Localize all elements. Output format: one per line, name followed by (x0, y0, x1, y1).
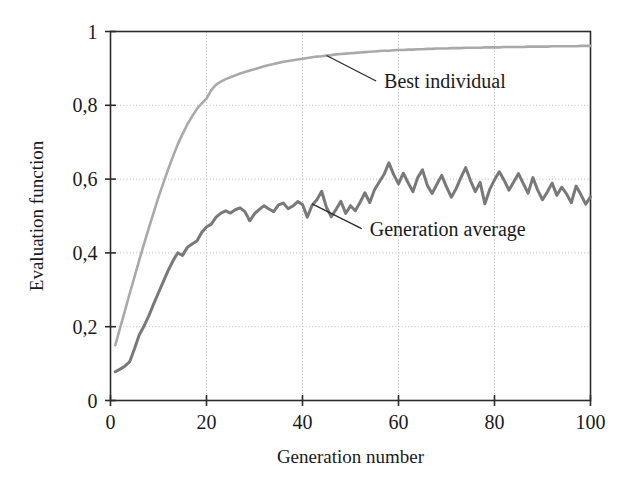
x-tick-label: 0 (106, 411, 116, 433)
y-tick-label: 0,4 (73, 242, 98, 264)
y-axis-title: Evaluation function (26, 140, 47, 291)
annotation-label-generation-average: Generation average (370, 218, 526, 241)
y-tick-label: 1 (88, 21, 98, 43)
y-tick-label: 0,6 (73, 168, 98, 190)
y-tick-label: 0,2 (73, 316, 98, 338)
y-tick-label: 0 (88, 390, 98, 412)
y-tick-label: 0,8 (73, 94, 98, 116)
x-tick-label: 80 (485, 411, 505, 433)
x-axis-title: Generation number (277, 446, 425, 467)
x-tick-label: 60 (389, 411, 409, 433)
x-tick-label: 100 (576, 411, 606, 433)
x-tick-label: 40 (293, 411, 313, 433)
chart-figure: Best individualGeneration average 00,20,… (0, 0, 635, 489)
annotation-label-best-individual: Best individual (384, 70, 506, 92)
evaluation-function-line-chart: Best individualGeneration average 00,20,… (0, 0, 635, 489)
x-tick-label: 20 (197, 411, 217, 433)
